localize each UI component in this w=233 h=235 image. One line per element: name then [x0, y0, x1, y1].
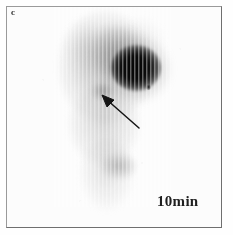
arrowed-focal-uptake — [91, 81, 115, 101]
arrow-shaft — [106, 99, 139, 128]
shoulder-left-region — [65, 21, 105, 75]
scintigraphy-figure: c 10min — [0, 0, 233, 235]
shoulder-right-region — [119, 19, 163, 71]
panel-label: c — [11, 8, 15, 17]
figure-frame: c 10min — [6, 6, 222, 228]
mid-body-silhouette — [69, 85, 139, 165]
focal-uptake-halo — [103, 37, 169, 101]
lower-abdominal-uptake — [102, 153, 136, 179]
raster-streak-overlay — [53, 7, 171, 207]
small-focal-speck — [146, 84, 151, 90]
intense-focal-uptake — [111, 45, 161, 91]
diffuse-uptake-region — [91, 25, 143, 81]
lesion-pointer-arrow — [102, 95, 139, 128]
upper-body-silhouette — [59, 11, 151, 123]
acquisition-time-label: 10min — [157, 193, 199, 210]
lower-body-silhouette — [81, 137, 133, 209]
arrow-head — [102, 95, 114, 107]
